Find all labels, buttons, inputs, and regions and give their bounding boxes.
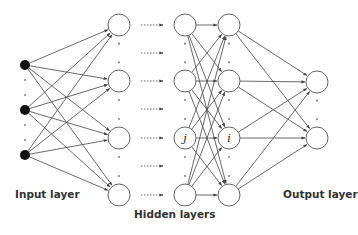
hidden-node xyxy=(218,70,240,92)
connection-edge xyxy=(192,34,222,72)
ellipsis-dot xyxy=(228,61,230,63)
input-node xyxy=(20,60,30,70)
hidden-node xyxy=(108,70,130,92)
ellipsis-dot xyxy=(24,139,26,141)
connections xyxy=(28,25,310,195)
ellipsis-dot xyxy=(316,118,318,120)
ellipsis-dot xyxy=(184,43,186,45)
output-node xyxy=(306,127,328,149)
node-label-i: i xyxy=(227,132,231,145)
ellipsis-dot xyxy=(228,156,230,158)
connection-edge xyxy=(28,35,112,151)
ellipsis-dot xyxy=(184,156,186,158)
hidden-node xyxy=(174,184,196,206)
ellipsis-dot xyxy=(118,118,120,120)
connection-edge xyxy=(238,145,307,189)
connection-edge xyxy=(236,91,310,186)
input-node xyxy=(20,105,30,115)
ellipsis-dot xyxy=(24,124,26,126)
ellipsis-dot xyxy=(118,99,120,101)
connection-edge xyxy=(238,31,307,75)
hidden-node xyxy=(108,184,130,206)
ellipsis-dot xyxy=(24,94,26,96)
ellipsis-dot xyxy=(184,61,186,63)
output-node xyxy=(306,71,328,93)
connection-edge xyxy=(30,66,107,79)
ellipsis-dot xyxy=(228,99,230,101)
connection-edge xyxy=(30,111,108,134)
connection-edge xyxy=(30,157,108,190)
dotted-arrows xyxy=(141,25,163,195)
ellipsis-dot xyxy=(316,100,318,102)
hidden-node xyxy=(218,184,240,206)
ellipsis-dot xyxy=(184,175,186,177)
ellipsis-dot xyxy=(118,61,120,63)
ellipsis-dot xyxy=(24,79,26,81)
ellipsis-dot xyxy=(118,43,120,45)
ellipsis-dot xyxy=(118,156,120,158)
hidden-node xyxy=(174,70,196,92)
hidden-node xyxy=(108,14,130,36)
connection-edge xyxy=(29,88,110,151)
connection-edge xyxy=(29,113,110,187)
hidden-layers-label: Hidden layers xyxy=(134,208,215,220)
connection-edge xyxy=(238,88,307,132)
connection-edge xyxy=(29,33,110,107)
ellipsis-dot xyxy=(228,43,230,45)
connection-edge xyxy=(238,87,307,131)
connection-edge xyxy=(28,69,112,185)
ellipsis-dot xyxy=(118,175,120,177)
nodes: ji xyxy=(20,14,328,206)
input-node xyxy=(20,150,30,160)
ellipsis-dot xyxy=(228,118,230,120)
connection-edge xyxy=(240,81,305,82)
ellipsis-dot xyxy=(184,118,186,120)
hidden-node xyxy=(108,127,130,149)
hidden-node xyxy=(174,14,196,36)
input-layer-label: Input layer xyxy=(15,188,80,200)
output-layer-label: Output layer xyxy=(283,188,358,200)
hidden-node xyxy=(218,14,240,36)
ellipsis-dot xyxy=(228,175,230,177)
ellipsis-dot xyxy=(184,99,186,101)
connection-edge xyxy=(30,30,108,63)
